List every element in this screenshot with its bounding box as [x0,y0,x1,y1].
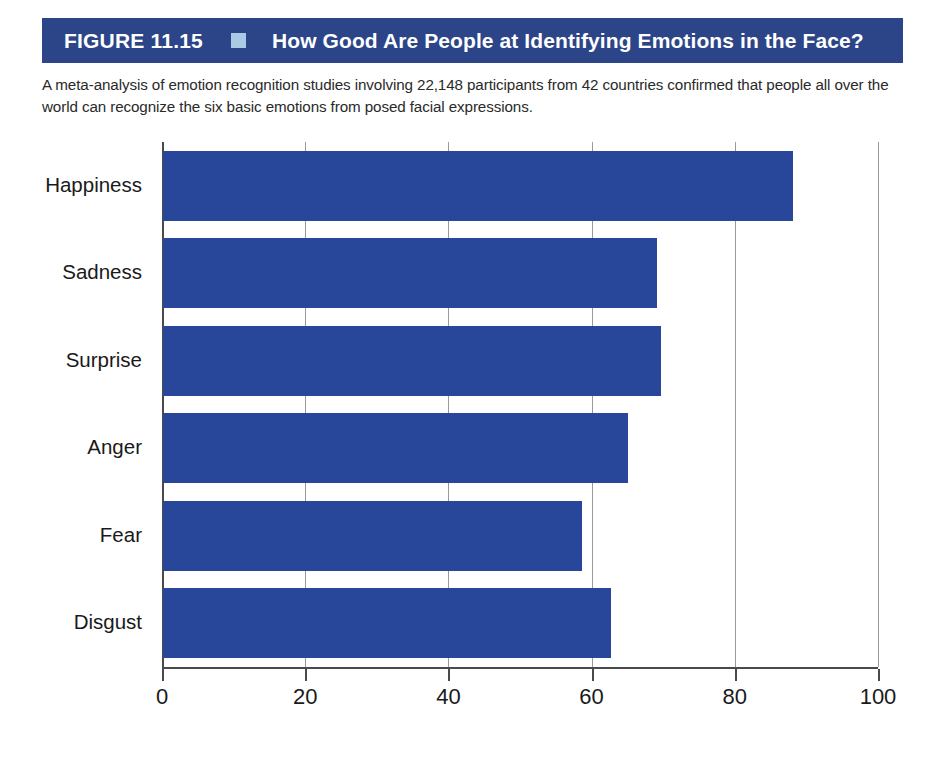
x-tick-mark-100 [878,669,880,681]
bar-surprise [163,326,661,396]
figure-number: FIGURE 11.15 [64,29,203,53]
category-label-disgust: Disgust [0,610,142,634]
x-tick-label-40: 40 [436,684,460,710]
x-tick-mark-40 [448,669,450,681]
bar-anger [163,413,628,483]
category-label-sadness: Sadness [0,260,142,284]
x-tick-label-20: 20 [293,684,317,710]
category-label-surprise: Surprise [0,348,142,372]
x-tick-label-0: 0 [156,684,168,710]
figure-caption: A meta-analysis of emotion recognition s… [42,74,908,118]
x-tick-mark-80 [735,669,737,681]
x-tick-mark-60 [592,669,594,681]
x-tick-label-100: 100 [860,684,897,710]
plot-area: 020406080100 HappinessSadnessSurpriseAng… [162,142,878,667]
bar-chart: 020406080100 HappinessSadnessSurpriseAng… [0,130,946,690]
gridline-80 [735,142,736,667]
bar-fear [163,501,582,571]
figure-header-banner: FIGURE 11.15 How Good Are People at Iden… [42,18,903,63]
bar-disgust [163,588,611,658]
category-label-happiness: Happiness [0,173,142,197]
x-tick-mark-20 [305,669,307,681]
x-tick-mark-0 [162,669,164,681]
gridline-100 [878,142,879,667]
category-label-anger: Anger [0,435,142,459]
x-tick-label-60: 60 [579,684,603,710]
square-bullet-icon [231,33,246,48]
category-label-fear: Fear [0,523,142,547]
bar-sadness [163,238,657,308]
x-axis-line [162,667,878,669]
figure-title: How Good Are People at Identifying Emoti… [272,29,864,53]
bar-happiness [163,151,793,221]
x-tick-label-80: 80 [723,684,747,710]
